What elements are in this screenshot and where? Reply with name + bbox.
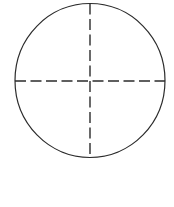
circle-diagram xyxy=(0,0,174,207)
figure-canvas xyxy=(0,0,174,207)
